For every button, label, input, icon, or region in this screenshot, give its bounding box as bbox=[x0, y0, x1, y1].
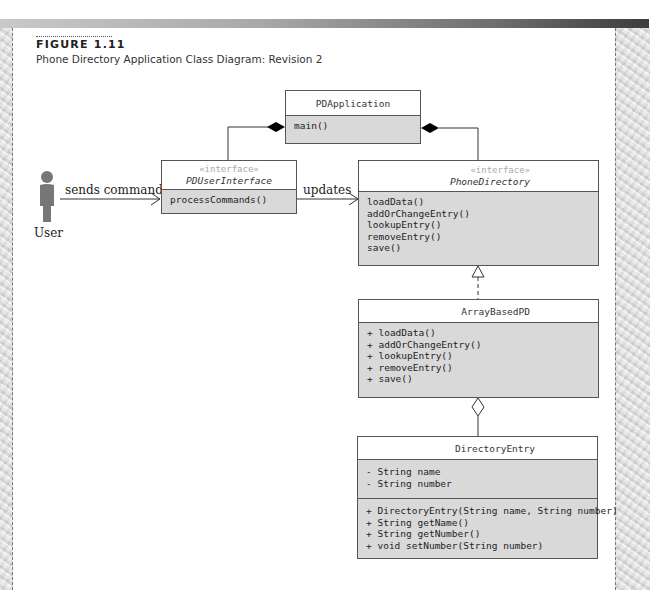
methods-compartment: + loadData() + addOrChangeEntry() + look… bbox=[359, 323, 598, 397]
methods-compartment: loadData() addOrChangeEntry() lookupEntr… bbox=[359, 192, 598, 265]
composition-phonedirectory bbox=[421, 123, 478, 160]
class-pduserinterface: «interface» PDUserInterface processComma… bbox=[161, 160, 297, 214]
class-arraybasedpd: ArrayBasedPD + loadData() + addOrChangeE… bbox=[358, 299, 599, 398]
attributes-compartment: - String name - String number bbox=[358, 460, 597, 499]
class-header: «interface» PhoneDirectory bbox=[359, 161, 598, 192]
method: addOrChangeEntry() bbox=[367, 208, 590, 220]
filled-diamond-icon bbox=[421, 123, 439, 133]
hollow-diamond-icon bbox=[472, 398, 484, 416]
class-header: PDApplication bbox=[286, 91, 420, 116]
method: loadData() bbox=[367, 196, 590, 208]
method: save() bbox=[367, 242, 590, 254]
class-name: PDUserInterface bbox=[162, 175, 296, 186]
stereotype: «interface» bbox=[470, 165, 530, 176]
class-name: ArrayBasedPD bbox=[461, 306, 530, 317]
method: + removeEntry() bbox=[367, 362, 590, 374]
method: processCommands() bbox=[170, 194, 288, 206]
methods-compartment: + DirectoryEntry(String name, String num… bbox=[358, 499, 597, 558]
realization-arraybasedpd bbox=[472, 266, 484, 299]
class-name: DirectoryEntry bbox=[455, 443, 535, 454]
methods-compartment: processCommands() bbox=[162, 190, 296, 213]
filled-diamond-icon bbox=[267, 122, 285, 132]
class-pdapplication: PDApplication main() bbox=[285, 90, 421, 144]
method: lookupEntry() bbox=[367, 219, 590, 231]
method: + save() bbox=[367, 373, 590, 385]
stereotype: «interface» bbox=[162, 164, 296, 175]
method: + lookupEntry() bbox=[367, 350, 590, 362]
class-header: DirectoryEntry bbox=[358, 437, 597, 460]
method: + loadData() bbox=[367, 327, 590, 339]
method: main() bbox=[294, 120, 412, 132]
association-label-sends-command: sends command bbox=[65, 183, 163, 197]
hollow-triangle-icon bbox=[472, 266, 484, 277]
class-directoryentry: DirectoryEntry - String name - String nu… bbox=[357, 436, 598, 559]
attribute: - String number bbox=[366, 478, 589, 490]
actor-label: User bbox=[34, 226, 63, 240]
aggregation-directoryentry bbox=[472, 398, 484, 436]
composition-pduserinterface bbox=[228, 122, 285, 160]
attribute: - String name bbox=[366, 466, 589, 478]
method: + addOrChangeEntry() bbox=[367, 339, 590, 351]
class-header: ArrayBasedPD bbox=[359, 300, 598, 323]
method: + String getName() bbox=[366, 517, 589, 529]
user-icon bbox=[40, 171, 54, 222]
class-phonedirectory: «interface» PhoneDirectory loadData() ad… bbox=[358, 160, 599, 266]
method: + void setNumber(String number) bbox=[366, 540, 589, 552]
method: removeEntry() bbox=[367, 231, 590, 243]
class-header: «interface» PDUserInterface bbox=[162, 161, 296, 190]
class-name: PDApplication bbox=[286, 98, 420, 109]
methods-compartment: main() bbox=[286, 116, 420, 143]
class-name: PhoneDirectory bbox=[450, 176, 530, 187]
method: + DirectoryEntry(String name, String num… bbox=[366, 505, 589, 517]
method: + String getNumber() bbox=[366, 528, 589, 540]
association-label-updates: updates bbox=[303, 183, 351, 197]
